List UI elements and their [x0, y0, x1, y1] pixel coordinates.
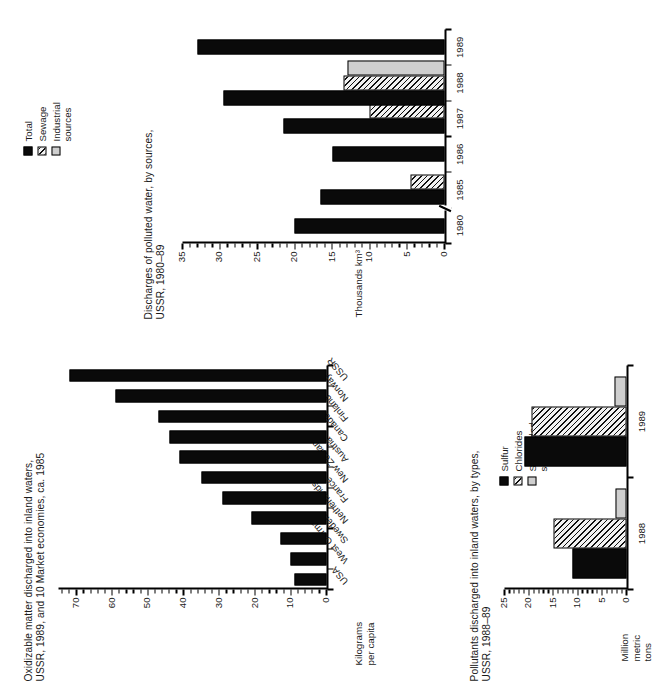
x-tick [445, 100, 451, 101]
x-tick [627, 588, 633, 589]
bar [115, 389, 326, 402]
y-tick [538, 589, 539, 593]
bar [410, 175, 444, 190]
y-tick [132, 589, 133, 593]
y-tick-label: 15 [546, 597, 557, 633]
y-tick-label: 60 [105, 597, 116, 633]
y-tick [552, 589, 553, 595]
y-tick [261, 589, 262, 593]
y-tick [413, 243, 414, 247]
y-tick [513, 589, 514, 593]
x-tick [327, 588, 333, 589]
y-tick [436, 243, 437, 247]
y-tick-label: 25 [250, 251, 261, 287]
y-tick-label: 40 [176, 597, 187, 633]
y-tick [406, 243, 407, 249]
legend-swatch-gray [51, 146, 60, 155]
legend-item: Sewage [36, 106, 47, 155]
y-tick [591, 589, 592, 593]
y-tick-label: 25 [497, 597, 508, 633]
y-tick [286, 243, 287, 247]
bar [332, 146, 444, 161]
y-tick [325, 589, 326, 595]
bar [251, 511, 326, 524]
y-tick [316, 243, 317, 247]
y-tick [601, 589, 602, 595]
y-tick [182, 589, 183, 595]
y-tick [586, 589, 587, 593]
y-tick [181, 243, 182, 249]
chart-title: Discharges of polluted water, by sources… [142, 19, 167, 319]
bar [179, 450, 326, 463]
y-tick [90, 589, 91, 593]
y-tick [118, 589, 119, 593]
y-tick [361, 243, 362, 247]
bar [169, 430, 326, 443]
y-tick [271, 243, 272, 247]
plot-area: 010203040506070USAWest GermanySwedenNeth… [58, 365, 326, 589]
bar [290, 552, 326, 565]
legend-swatch-black [23, 146, 32, 155]
y-tick-label: 30 [212, 597, 223, 633]
legend-item: Industrial sources [50, 102, 72, 155]
plot-area: 051015202519881989 [504, 365, 626, 589]
y-tick [518, 589, 519, 593]
y-tick [219, 243, 220, 249]
y-tick [421, 243, 422, 247]
y-tick [97, 589, 98, 593]
y-tick [611, 589, 612, 593]
legend-label: Sewage [36, 106, 47, 141]
y-tick [264, 243, 265, 247]
y-tick [168, 589, 169, 593]
y-tick [140, 589, 141, 593]
y-tick [542, 589, 543, 593]
chart-title: Pollutants discharged into inland waters… [468, 361, 493, 681]
y-tick [249, 243, 250, 247]
y-tick [557, 589, 558, 593]
x-category-label: 1988 [635, 511, 646, 555]
chart-title: Oxidizable matter discharged into inland… [22, 361, 47, 681]
x-tick [445, 64, 451, 65]
y-tick [154, 589, 155, 593]
y-tick [369, 243, 370, 249]
y-tick-label: 30 [212, 251, 223, 287]
chart-pollutants-by-type: Pollutants discharged into inland waters… [468, 351, 656, 681]
bar [158, 410, 326, 423]
y-tick-label: 0 [619, 597, 630, 633]
y-tick [275, 589, 276, 593]
y-tick [290, 589, 291, 595]
y-tick [75, 589, 76, 595]
bar [531, 406, 626, 436]
y-tick [301, 243, 302, 247]
y-tick [161, 589, 162, 593]
bar [280, 532, 326, 545]
y-tick-label: 10 [570, 597, 581, 633]
y-tick [247, 589, 248, 593]
bar [294, 573, 326, 586]
y-tick [596, 589, 597, 593]
y-tick [189, 243, 190, 247]
axis-break-icon [439, 201, 452, 212]
y-tick-label: 20 [248, 597, 259, 633]
y-tick [240, 589, 241, 593]
x-tick [445, 135, 451, 136]
bar [69, 369, 326, 382]
bar [197, 39, 444, 54]
y-tick-label: 0 [319, 597, 330, 633]
y-tick [606, 589, 607, 593]
y-tick-label: 5 [400, 251, 411, 287]
y-tick [68, 589, 69, 593]
y-tick [376, 243, 377, 247]
x-tick [627, 476, 633, 477]
x-tick [445, 242, 451, 243]
y-tick [311, 589, 312, 593]
y-tick [232, 589, 233, 593]
bar [553, 518, 626, 548]
y-tick [197, 589, 198, 593]
bar [283, 118, 444, 133]
y-tick [324, 243, 325, 247]
y-tick [61, 589, 62, 593]
y-tick [354, 243, 355, 247]
legend-discharges: TotalSewageIndustrial sources [22, 25, 66, 155]
chart-discharges-polluted-water: Discharges of polluted water, by sources… [22, 19, 462, 319]
